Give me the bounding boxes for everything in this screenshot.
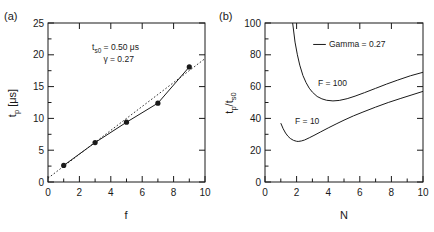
svg-text:0: 0 — [262, 187, 268, 198]
svg-text:2: 2 — [294, 187, 300, 198]
data-point — [124, 120, 129, 125]
panel-a-annotation-ts0: ts0 = 0.50 μs — [92, 42, 139, 54]
svg-text:6: 6 — [139, 187, 145, 198]
panel-a-data-line — [64, 67, 190, 166]
panel-b-y-den-sub: s0 — [229, 92, 238, 100]
data-point — [155, 101, 160, 106]
svg-text:20: 20 — [33, 49, 45, 60]
panel-a-annotation-gamma: γ = 0.27 — [103, 54, 134, 64]
svg-text:15: 15 — [33, 81, 45, 92]
svg-text:10: 10 — [33, 113, 45, 124]
svg-text:100: 100 — [244, 18, 261, 29]
panel-b-y-axis-title: tp/ts0 — [223, 92, 238, 113]
svg-text:2: 2 — [77, 187, 83, 198]
panel-b-curve-label-f10: F = 10 — [295, 116, 320, 126]
data-point — [187, 64, 192, 69]
svg-text:6: 6 — [357, 187, 363, 198]
panel-a-y-axis-unit: [μs] — [6, 89, 18, 107]
svg-text:40: 40 — [250, 113, 262, 124]
svg-text:20: 20 — [250, 145, 262, 156]
panel-b: (b) — [217, 0, 434, 232]
svg-text:4: 4 — [325, 187, 331, 198]
svg-text:8: 8 — [171, 187, 177, 198]
panel-b-curve-f100 — [293, 23, 423, 101]
svg-text:80: 80 — [250, 49, 262, 60]
figure-container: (a) — [0, 0, 434, 232]
svg-text:60: 60 — [250, 81, 262, 92]
panel-a-plot: (a) — [0, 0, 217, 232]
svg-text:0: 0 — [255, 177, 261, 188]
panel-a-y-tick-labels: 0 5 10 15 20 25 — [33, 18, 45, 188]
panel-b-x-tick-labels: 0 2 4 6 8 10 — [262, 187, 429, 198]
panel-b-y-tick-labels: 0 20 40 60 80 100 — [244, 18, 261, 188]
panel-a: (a) — [0, 0, 217, 232]
data-point — [61, 163, 66, 168]
svg-text:25: 25 — [33, 18, 45, 29]
panel-b-legend-label: Gamma = 0.27 — [329, 39, 386, 49]
panel-b-tag: (b) — [219, 10, 232, 22]
svg-text:8: 8 — [389, 187, 395, 198]
svg-text:tp [μs]: tp [μs] — [6, 89, 21, 117]
panel-b-x-axis-title: N — [340, 209, 348, 221]
svg-text:10: 10 — [199, 187, 211, 198]
svg-text:5: 5 — [38, 145, 44, 156]
panel-b-plot: (b) — [217, 0, 434, 232]
svg-text:tp/ts0: tp/ts0 — [223, 92, 238, 113]
svg-text:4: 4 — [108, 187, 114, 198]
svg-text:0: 0 — [45, 187, 51, 198]
svg-text:10: 10 — [417, 187, 429, 198]
panel-a-x-tick-labels: 0 2 4 6 8 10 — [45, 187, 211, 198]
panel-a-x-axis-title: f — [124, 209, 128, 221]
annot-rest: = 0.50 μs — [101, 42, 139, 52]
panel-b-curve-label-f100: F = 100 — [318, 78, 347, 88]
data-point — [93, 140, 98, 145]
panel-a-y-axis-title: tp [μs] — [6, 89, 21, 117]
svg-text:0: 0 — [38, 177, 44, 188]
panel-a-tag: (a) — [4, 10, 17, 22]
